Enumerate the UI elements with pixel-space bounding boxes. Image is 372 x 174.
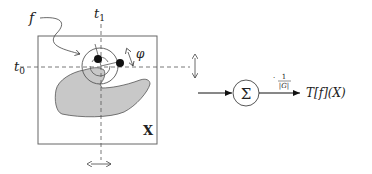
angle-label: φ [136,47,145,61]
object-shape [55,68,150,117]
output-label: T[f](X) [306,86,346,100]
norm-numerator: 1 [282,73,286,81]
filter-dot-1 [94,55,102,63]
sum-symbol: Σ [241,85,252,103]
diagram-canvas: φ f t1 t0 X Σ · 1 |G| T[f](X) [0,0,372,174]
angle-arrow [128,52,133,66]
filter-dot-2 [116,59,124,67]
image-label: X [143,123,154,138]
norm-dot: · [273,74,275,82]
t1-label: t1 [94,6,105,23]
rotation-line-2 [101,62,118,66]
filter-label: f [28,10,37,26]
norm-denominator: |G| [279,82,289,90]
t0-label: t0 [14,59,25,76]
